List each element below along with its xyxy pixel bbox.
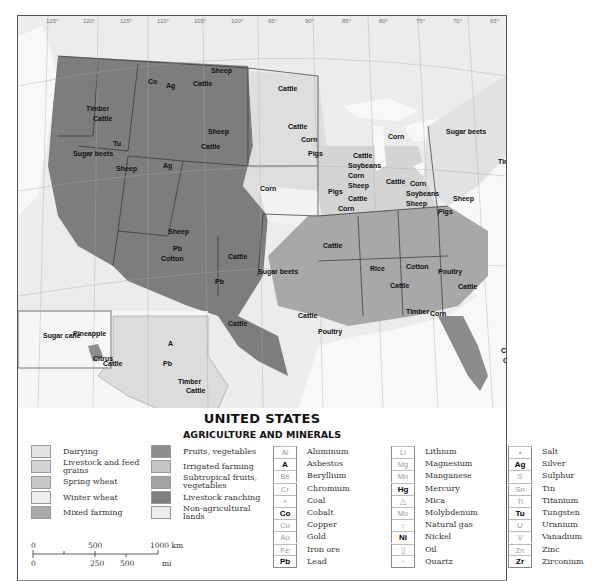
longitude-label: 105°	[194, 18, 207, 24]
map-region-label: Pb	[215, 278, 224, 285]
map-title: UNITED STATES	[18, 411, 506, 426]
land-use-label: Spring wheat	[63, 478, 118, 486]
land-use-legend-item: Livestock and feed grains	[31, 459, 153, 474]
mineral-symbol: Al	[273, 446, 297, 458]
map-legend: UNITED STATES AGRICULTURE AND MINERALS D…	[17, 408, 507, 581]
mineral-legend-item: AAsbestos	[273, 458, 350, 470]
mineral-label: Lead	[307, 558, 327, 566]
longitude-label: 120°	[83, 18, 96, 24]
mineral-legend-item: AlAluminum	[273, 446, 350, 458]
map-region-label: Sheep	[211, 67, 232, 75]
mineral-legend-item: ▫Quartz	[391, 556, 478, 568]
mineral-symbol: Hg	[391, 483, 415, 495]
mineral-label: Beryllium	[307, 472, 346, 480]
us-agriculture-map: TimberCattleSheepCattleCoAgCattleCattleC…	[17, 15, 507, 410]
mineral-label: Oil	[425, 546, 437, 554]
map-region-label: Cattle	[278, 85, 298, 92]
scale-bar: 0 500 1000 km 0 250 500 mi	[28, 533, 228, 573]
map-region-label: Cattle	[458, 283, 478, 290]
map-region-label: Pigs	[328, 188, 343, 196]
mineral-legend-item: SnTin	[508, 483, 584, 495]
mineral-label: Chromium	[307, 485, 350, 493]
mineral-label: Titanium	[542, 497, 578, 505]
map-region-label: Cattle	[390, 282, 410, 289]
mineral-symbol: Au	[273, 531, 297, 543]
map-region-label: Co	[148, 78, 157, 85]
land-use-label: Irrigated farming	[183, 463, 254, 471]
mineral-symbol: Zn	[508, 544, 532, 556]
mineral-symbol: △	[391, 495, 415, 507]
mineral-label: Zinc	[542, 546, 560, 554]
map-region-label: Rice	[370, 265, 385, 272]
map-region-label: Corn	[430, 310, 446, 317]
mineral-symbol: Cr	[273, 483, 297, 495]
map-region-label: Cattle	[298, 312, 318, 319]
map-canvas: TimberCattleSheepCattleCoAgCattleCattleC…	[18, 16, 506, 409]
longitude-label: 70°	[453, 18, 463, 24]
scale-km-0: 0	[31, 541, 36, 550]
mineral-legend-item: NiNickel	[391, 531, 478, 543]
longitude-label: 115°	[120, 18, 133, 24]
map-region-label: Poultry	[318, 328, 342, 336]
mineral-legend-item: ○Natural gas	[391, 519, 478, 531]
mineral-symbol: +	[273, 495, 297, 507]
mineral-legend-item: BeBeryllium	[273, 470, 350, 482]
mineral-label: Salt	[542, 448, 558, 456]
mineral-label: Sulphur	[542, 472, 574, 480]
map-region-label: Timber	[86, 105, 109, 112]
scale-mi-500: 500	[120, 559, 134, 568]
mineral-label: Gold	[307, 533, 326, 541]
mineral-label: Nickel	[425, 533, 451, 541]
land-use-legend-item: Non-agricultural lands	[151, 505, 273, 520]
land-use-legend-item: Fruits, vegetables	[151, 444, 273, 459]
longitude-label: 75°	[416, 18, 426, 24]
land-use-label: Livestock and feed grains	[63, 459, 153, 475]
mineral-legend-item: HgMercury	[391, 483, 478, 495]
map-region-label: Pigs	[308, 150, 323, 158]
mineral-label: Silver	[542, 460, 566, 468]
mineral-legend-item: △Mica	[391, 495, 478, 507]
land-use-swatch	[151, 476, 171, 489]
map-region-label: Corn	[348, 172, 364, 179]
mineral-legend-item: CoCobalt	[273, 507, 350, 519]
scale-km-1000: 1000 km	[150, 541, 183, 550]
map-region-label: Sheep	[116, 165, 137, 173]
map-region-label: Pb	[173, 245, 182, 252]
mineral-symbol: •	[508, 446, 532, 458]
land-use-swatch	[31, 491, 51, 504]
land-use-legend-item: Subtropical fruits, vegetables	[151, 475, 273, 490]
land-use-label: Livestock ranching	[183, 494, 260, 502]
mineral-label: Copper	[307, 521, 337, 529]
mineral-label: Tungsten	[542, 509, 580, 517]
map-region-label: Pigs	[438, 208, 453, 216]
map-region-label: A	[168, 340, 173, 347]
land-use-swatch	[151, 460, 171, 473]
mineral-legend-item: CrChromium	[273, 483, 350, 495]
mineral-label: Lithium	[425, 448, 457, 456]
map-region-label: Poultry	[438, 268, 462, 276]
mineral-label: Natural gas	[425, 521, 473, 529]
map-region-label: Corn	[410, 180, 426, 187]
land-use-label: Winter wheat	[63, 494, 118, 502]
mineral-legend-item: LiLithium	[391, 446, 478, 458]
mineral-symbol: ○	[391, 519, 415, 531]
mineral-symbol: Mo	[391, 507, 415, 519]
minerals-legend-col-3: •SaltAgSilverSSulphurSnTinTiTitaniumTuTu…	[508, 446, 584, 568]
longitude-label: 65°	[490, 18, 500, 24]
map-region-label: Soybeans	[406, 190, 439, 198]
land-use-label: Dairying	[63, 448, 98, 456]
land-use-label: Subtropical fruits, vegetables	[183, 474, 273, 490]
mineral-symbol: Ag	[508, 458, 532, 470]
land-use-legend-col-2: Fruits, vegetablesIrrigated farmingSubtr…	[151, 444, 273, 520]
mineral-label: Uranium	[542, 521, 578, 529]
mineral-legend-item: CuCopper	[273, 519, 350, 531]
mineral-label: Molybdenum	[425, 509, 478, 517]
land-use-label: Mixed farming	[63, 509, 123, 517]
land-use-swatch	[151, 506, 171, 519]
mineral-symbol: Sn	[508, 483, 532, 495]
map-region-label: Sheep	[406, 200, 427, 208]
mineral-label: Zirconium	[542, 558, 584, 566]
scale-km-500: 500	[88, 541, 102, 550]
map-region-label: Cattle	[353, 152, 373, 159]
mineral-label: Cobalt	[307, 509, 334, 517]
